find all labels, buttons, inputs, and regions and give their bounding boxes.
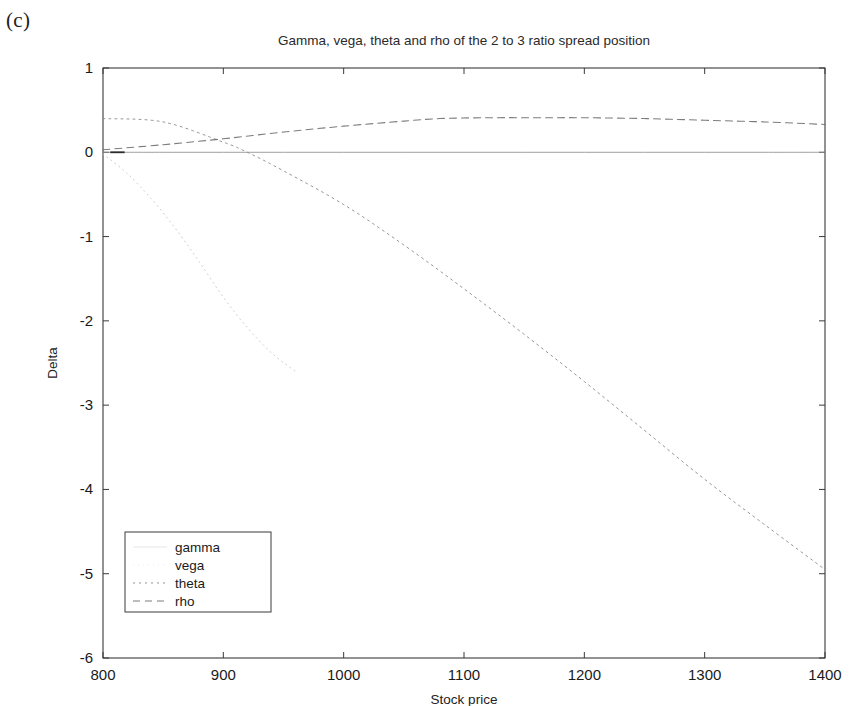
x-axis-tick-label: 1300 [688,666,721,683]
y-axis-tick-label: -3 [80,396,93,413]
chart-plot: gammavegathetarho 8009001000110012001300… [0,0,851,706]
y-axis-tick-label: 1 [85,59,93,76]
x-axis-tick-label: 1100 [448,666,480,683]
legend-label-gamma: gamma [175,540,221,555]
legend-label-theta: theta [175,576,206,591]
y-axis-tick-label: -4 [80,480,93,497]
legend-box: gammavegathetarho [125,532,271,612]
series-line-vega [103,154,296,371]
series-layer [103,118,825,570]
x-axis-title: Stock price [431,692,498,706]
x-axis-tick-label: 1400 [808,666,841,683]
legend-label-vega: vega [175,558,205,573]
y-axis-tick-label: -5 [80,565,93,582]
y-axis-tick-label: -2 [80,312,93,329]
x-axis-tick-label: 900 [211,666,236,683]
series-line-rho [103,118,825,150]
y-axis-tick-label: -1 [80,228,93,245]
x-axis-tick-label: 800 [90,666,115,683]
y-axis-tick-label: -6 [80,649,93,666]
legend-label-rho: rho [175,594,195,609]
series-line-theta [103,119,825,570]
x-axis-tick-label: 1200 [568,666,601,683]
figure-container: (c) Gamma, vega, theta and rho of the 2 … [0,0,851,706]
y-axis-title: Delta [45,347,60,379]
x-axis-tick-label: 1000 [327,666,360,683]
y-axis-tick-label: 0 [85,143,93,160]
